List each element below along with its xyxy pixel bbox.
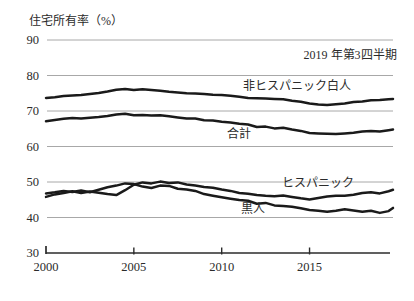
y-tick-label-90: 90 xyxy=(27,33,40,47)
y-tick-label-50: 50 xyxy=(27,175,40,189)
x-tick-label-2015: 2015 xyxy=(297,260,322,274)
y-tick-label-40: 40 xyxy=(27,211,40,225)
x-tick-label-2000: 2000 xyxy=(34,260,59,274)
y-tick-label-80: 80 xyxy=(27,69,40,83)
series-label-1: 合計 xyxy=(227,126,251,141)
homeownership-line-chart: 200020052010201530405060708090住宅所有率（%）20… xyxy=(0,0,414,301)
series-label-2: ヒスパニック xyxy=(282,176,354,190)
series-label-0: 非ヒスパニック白人 xyxy=(243,78,351,93)
x-tick-label-2010: 2010 xyxy=(209,260,234,274)
y-tick-label-70: 70 xyxy=(27,104,40,118)
y-tick-label-60: 60 xyxy=(27,140,40,154)
y-tick-label-30: 30 xyxy=(27,246,40,260)
y-axis-title: 住宅所有率（%） xyxy=(29,13,123,28)
homeownership-chart-canvas: 200020052010201530405060708090住宅所有率（%）20… xyxy=(0,0,414,301)
series-label-3: 黒人 xyxy=(241,202,265,216)
x-tick-label-2005: 2005 xyxy=(121,260,146,274)
series-line-1 xyxy=(46,114,393,134)
annotation-quarter: 2019 年第3四半期 xyxy=(304,48,397,62)
